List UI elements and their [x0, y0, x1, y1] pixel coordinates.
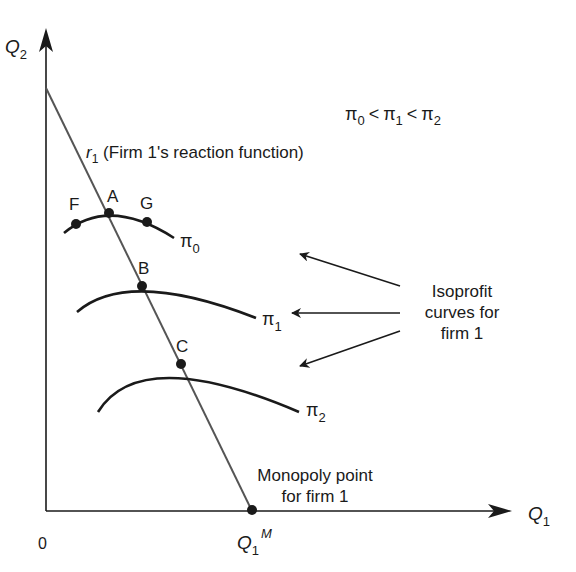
point-label-c: C — [176, 337, 188, 356]
point-label-g: G — [140, 194, 153, 213]
point-label-a: A — [107, 187, 119, 206]
curve-label-pi2: π2 — [306, 400, 326, 425]
isoprofit-curve-pi2 — [98, 378, 299, 412]
point-f — [71, 219, 81, 229]
reaction-function-label: r1 (Firm 1's reaction function) — [86, 143, 304, 166]
y-axis-label: Q2 — [5, 36, 27, 62]
arrow-to-pi2-icon — [300, 331, 400, 366]
point-monopoly — [247, 505, 257, 515]
origin-label: 0 — [38, 535, 47, 552]
point-a — [104, 208, 114, 218]
arrow-to-pi0-icon — [300, 254, 400, 286]
curve-label-pi1: π1 — [262, 309, 282, 334]
isoprofit-annotation-line3: firm 1 — [441, 324, 484, 343]
monopoly-label-line1: Monopoly point — [257, 466, 373, 485]
monopoly-quantity-label: Q1M — [237, 526, 272, 558]
point-c — [176, 359, 186, 369]
y-axis — [39, 28, 53, 511]
x-axis-label: Q1 — [528, 503, 550, 529]
profit-inequality: π0<π1<π2 — [345, 104, 441, 128]
isoprofit-annotation-line2: curves for — [425, 303, 500, 322]
isoprofit-curve-pi0 — [64, 216, 174, 238]
x-axis — [46, 504, 512, 518]
point-label-f: F — [69, 195, 79, 214]
point-label-b: B — [138, 259, 149, 278]
point-g — [142, 217, 152, 227]
isoprofit-curve-pi1 — [77, 291, 256, 318]
isoprofit-annotation-line1: Isoprofit — [432, 282, 493, 301]
point-b — [137, 281, 147, 291]
cournot-diagram: Q2 Q1 0 r1 (Firm 1's reaction function) … — [0, 0, 576, 572]
monopoly-label-line2: for firm 1 — [281, 487, 348, 506]
isoprofit-annotation-arrows — [292, 254, 400, 366]
curve-label-pi0: π0 — [180, 231, 200, 256]
